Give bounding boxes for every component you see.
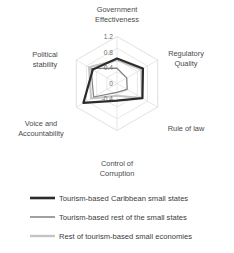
legend-label-1: Tourism-based rest of the small states xyxy=(59,213,187,222)
radar-chart-figure: 1.2 0.8 0.4 0 -0.4 Government Effectiven… xyxy=(0,0,234,253)
axis-label-government-effectiveness-line1: Government xyxy=(97,5,138,14)
axis-label-control-of-corruption-line1: Control of xyxy=(101,159,134,168)
tick-label-neg-0-4: -0.4 xyxy=(102,95,114,102)
axis-label-voice-and-accountability-line2: Accountability xyxy=(18,129,64,138)
radar-chart-svg: 1.2 0.8 0.4 0 -0.4 Government Effectiven… xyxy=(0,0,234,253)
axis-category-labels: Government Effectiveness Regulatory Qual… xyxy=(18,5,205,178)
tick-label-0-4: 0.4 xyxy=(104,64,113,71)
radar-series-group xyxy=(83,59,143,103)
axis-label-rule-of-law: Rule of law xyxy=(168,124,205,133)
legend-label-2: Rest of tourism-based small economies xyxy=(59,232,192,241)
axis-label-political-stability-line1: Political xyxy=(32,50,58,59)
axis-label-regulatory-quality-line1: Regulatory xyxy=(168,49,204,58)
axis-label-voice-and-accountability-line1: Voice and xyxy=(25,119,57,128)
axis-label-control-of-corruption-line2: Corruption xyxy=(100,169,135,178)
tick-label-0: 0 xyxy=(109,80,113,87)
tick-label-1-2: 1.2 xyxy=(104,33,113,40)
legend: Tourism-based Caribbean small states Tou… xyxy=(30,194,192,241)
legend-label-0: Tourism-based Caribbean small states xyxy=(59,194,188,203)
axis-label-government-effectiveness-line2: Effectiveness xyxy=(95,15,139,24)
axis-label-political-stability-line2: stability xyxy=(33,60,58,69)
tick-label-0-8: 0.8 xyxy=(104,49,113,56)
axis-label-regulatory-quality-line2: Quality xyxy=(174,59,197,68)
